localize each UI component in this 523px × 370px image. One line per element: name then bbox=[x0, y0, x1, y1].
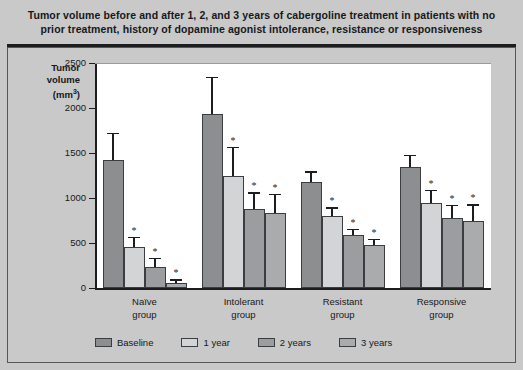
bar bbox=[244, 209, 265, 288]
bar bbox=[442, 218, 463, 288]
error-bar-stem bbox=[211, 77, 213, 115]
figure-root: Tumor volume before and after 1, 2, and … bbox=[0, 0, 523, 370]
figure-title-band: Tumor volume before and after 1, 2, and … bbox=[0, 0, 523, 44]
bar bbox=[124, 247, 145, 288]
significance-asterisk: * bbox=[446, 195, 458, 203]
error-bar-stem bbox=[112, 133, 114, 160]
y-tick-0 bbox=[89, 288, 95, 289]
group-label-line: group bbox=[397, 309, 487, 322]
error-bar-stem bbox=[451, 205, 453, 219]
significance-asterisk: * bbox=[326, 197, 338, 205]
legend-swatch-icon bbox=[181, 338, 198, 347]
group-label-line: Naïve bbox=[100, 296, 190, 309]
legend-swatch-icon bbox=[258, 338, 275, 347]
legend-swatch-icon bbox=[339, 338, 356, 347]
legend-label: 2 years bbox=[280, 337, 311, 348]
legend-item-3-years[interactable]: 3 years bbox=[339, 337, 392, 348]
error-bar-stem bbox=[409, 155, 411, 168]
y-tick-label-500: 500 bbox=[42, 237, 86, 248]
significance-asterisk: * bbox=[425, 180, 437, 188]
group-label-line: Resistant bbox=[298, 296, 388, 309]
error-bar-cap bbox=[425, 190, 437, 192]
bar bbox=[400, 167, 421, 288]
group-label-line: group bbox=[100, 309, 190, 322]
significance-asterisk: * bbox=[368, 229, 380, 237]
significance-asterisk: * bbox=[128, 227, 140, 235]
legend-swatch-icon bbox=[95, 338, 112, 347]
legend-label: 1 year bbox=[203, 337, 229, 348]
bar bbox=[343, 235, 364, 288]
error-bar-cap bbox=[446, 205, 458, 207]
bar bbox=[322, 216, 343, 288]
legend-label: 3 years bbox=[361, 337, 392, 348]
bar bbox=[421, 203, 442, 288]
group-label-line: group bbox=[298, 309, 388, 322]
figure-title: Tumor volume before and after 1, 2, and … bbox=[27, 8, 497, 37]
y-axis-title-line2: volume bbox=[47, 74, 80, 85]
significance-asterisk: * bbox=[248, 182, 260, 190]
y-tick-label-2000: 2000 bbox=[42, 102, 86, 113]
group-label-line: Responsive bbox=[397, 296, 487, 309]
bar bbox=[166, 283, 187, 288]
error-bar-cap bbox=[467, 204, 479, 206]
error-bar-cap bbox=[326, 207, 338, 209]
chart-legend: Baseline1 year2 years3 years bbox=[95, 334, 435, 350]
y-tick-label-2500: 2500 bbox=[42, 57, 86, 68]
legend-item-baseline[interactable]: Baseline bbox=[95, 337, 153, 348]
error-bar-cap bbox=[404, 155, 416, 157]
bar bbox=[463, 221, 484, 288]
y-tick-label-1000: 1000 bbox=[42, 192, 86, 203]
group-label-3: Resistantgroup bbox=[298, 296, 388, 321]
significance-asterisk: * bbox=[269, 184, 281, 192]
y-tick-label-1500: 1500 bbox=[42, 147, 86, 158]
error-bar-cap bbox=[206, 77, 218, 79]
significance-asterisk: * bbox=[347, 219, 359, 227]
error-bar-cap bbox=[248, 192, 260, 194]
error-bar-stem bbox=[274, 194, 276, 213]
error-bar-cap bbox=[347, 229, 359, 231]
bar bbox=[265, 213, 286, 288]
legend-label: Baseline bbox=[117, 337, 153, 348]
bar bbox=[301, 182, 322, 288]
error-bar-cap bbox=[368, 239, 380, 241]
error-bar-cap bbox=[128, 237, 140, 239]
legend-item-2-years[interactable]: 2 years bbox=[258, 337, 311, 348]
error-bar-stem bbox=[472, 204, 474, 221]
legend-item-1-year[interactable]: 1 year bbox=[181, 337, 229, 348]
error-bar-stem bbox=[430, 190, 432, 204]
significance-asterisk: * bbox=[227, 137, 239, 145]
bar bbox=[223, 176, 244, 288]
significance-asterisk: * bbox=[467, 194, 479, 202]
bars-layer: ************ bbox=[95, 63, 491, 288]
group-label-line: Intolerant bbox=[199, 296, 289, 309]
error-bar-cap bbox=[227, 147, 239, 149]
y-tick-label-0: 0 bbox=[42, 282, 86, 293]
group-label-2: Intolerantgroup bbox=[199, 296, 289, 321]
bar bbox=[145, 267, 166, 288]
group-label-1: Naïvegroup bbox=[100, 296, 190, 321]
significance-asterisk: * bbox=[149, 248, 161, 256]
bar bbox=[364, 245, 385, 288]
bar bbox=[202, 114, 223, 288]
group-label-4: Responsivegroup bbox=[397, 296, 487, 321]
y-axis-title-unit: (mm bbox=[53, 89, 73, 100]
bar bbox=[103, 160, 124, 288]
error-bar-cap bbox=[170, 279, 182, 281]
group-label-line: group bbox=[199, 309, 289, 322]
error-bar-stem bbox=[310, 171, 312, 182]
error-bar-cap bbox=[269, 194, 281, 196]
error-bar-cap bbox=[107, 133, 119, 135]
error-bar-stem bbox=[253, 192, 255, 209]
error-bar-stem bbox=[232, 147, 234, 177]
y-axis-title-paren: ) bbox=[77, 89, 80, 100]
significance-asterisk: * bbox=[170, 269, 182, 277]
error-bar-cap bbox=[149, 258, 161, 260]
error-bar-cap bbox=[305, 171, 317, 173]
